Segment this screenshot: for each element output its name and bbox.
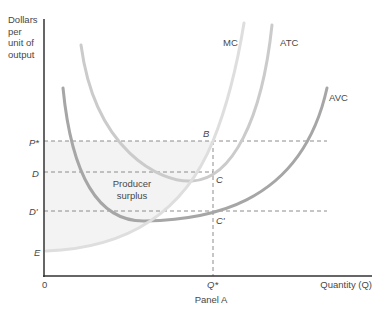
e-label: E	[34, 247, 41, 258]
cost-curves-chart: Dollars per unit of output MC ATC AVC P*…	[0, 0, 383, 315]
point-b-label: B	[203, 128, 210, 139]
y-axis-title-line: unit of	[8, 37, 34, 48]
p-star-label: P*	[29, 137, 39, 148]
point-c-label: C	[216, 174, 223, 185]
q-star-label: Q*	[207, 279, 218, 290]
d-label: D	[32, 168, 39, 179]
origin-label: 0	[42, 279, 47, 290]
y-axis-title-line: output	[8, 49, 35, 60]
panel-label: Panel A	[195, 294, 228, 305]
point-c-prime-label: C'	[216, 215, 226, 226]
x-axis-title: Quantity (Q)	[320, 279, 372, 290]
d-prime-label: D'	[29, 206, 39, 217]
y-axis-title-line: per	[8, 26, 22, 37]
producer-surplus-label: surplus	[117, 190, 148, 201]
mc-label: MC	[223, 37, 238, 48]
avc-label: AVC	[329, 92, 348, 103]
producer-surplus-label: Producer	[113, 178, 152, 189]
y-axis-title-line: Dollars	[8, 14, 38, 25]
y-axis-title: Dollars per unit of output	[8, 14, 38, 60]
atc-label: ATC	[280, 37, 298, 48]
